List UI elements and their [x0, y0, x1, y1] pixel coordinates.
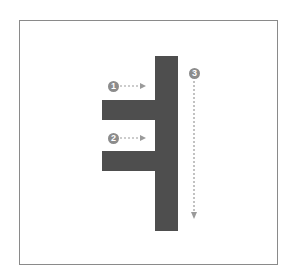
arrow-3-icon — [191, 81, 197, 219]
arrow-1-icon — [120, 83, 146, 89]
callout-badge-1: 1 — [108, 81, 119, 92]
callout-badge-3: 3 — [189, 68, 200, 79]
arrow-2-icon — [120, 135, 146, 141]
arrows-layer — [0, 0, 298, 279]
callout-badge-2: 2 — [108, 133, 119, 144]
